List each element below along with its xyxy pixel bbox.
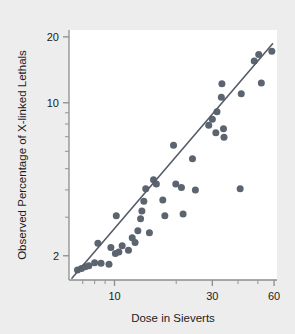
x-axis-title: Dose in Sieverts xyxy=(131,312,215,324)
data-point-5 xyxy=(98,260,105,267)
data-point-39 xyxy=(221,134,228,141)
data-point-40 xyxy=(237,185,244,192)
x-tick-label-60: 60 xyxy=(268,290,280,302)
data-point-11 xyxy=(119,242,126,249)
data-point-37 xyxy=(218,80,225,87)
data-point-18 xyxy=(138,208,145,215)
data-point-32 xyxy=(205,122,212,129)
figure-container: 10306021020 Dose in Sieverts Observed Pe… xyxy=(0,0,295,334)
data-point-21 xyxy=(146,229,153,236)
data-point-13 xyxy=(125,247,132,254)
data-point-16 xyxy=(134,227,141,234)
data-point-12 xyxy=(113,212,120,219)
data-point-38 xyxy=(220,125,227,132)
data-point-15 xyxy=(132,239,139,246)
data-point-4 xyxy=(91,259,98,266)
data-point-29 xyxy=(180,211,187,218)
data-point-45 xyxy=(268,48,275,55)
data-point-30 xyxy=(189,155,196,162)
y-axis-title: Observed Percentage of X-linked Lethals xyxy=(16,50,28,260)
data-point-6 xyxy=(105,261,112,268)
x-tick-label-30: 30 xyxy=(206,290,218,302)
y-tick-label-10: 10 xyxy=(47,97,59,109)
data-point-10 xyxy=(115,249,122,256)
data-point-19 xyxy=(140,198,147,205)
data-point-34 xyxy=(212,129,219,136)
data-point-26 xyxy=(170,142,177,149)
data-point-24 xyxy=(159,196,166,203)
data-point-25 xyxy=(161,212,168,219)
y-tick-label-20: 20 xyxy=(47,31,59,43)
data-point-44 xyxy=(258,80,265,87)
data-point-31 xyxy=(192,186,199,193)
x-tick-label-10: 10 xyxy=(108,290,120,302)
y-tick-label-2: 2 xyxy=(53,250,59,262)
data-point-17 xyxy=(137,215,144,222)
data-point-8 xyxy=(107,244,114,251)
scatter-chart: 10306021020 Dose in Sieverts Observed Pe… xyxy=(0,0,295,334)
data-point-28 xyxy=(178,184,185,191)
data-point-41 xyxy=(238,90,245,97)
